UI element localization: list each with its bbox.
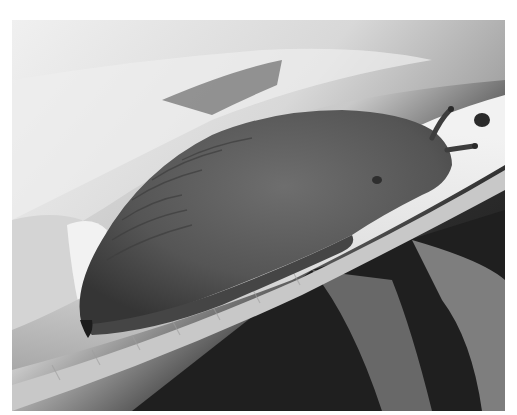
- dirt-speck: [474, 113, 490, 127]
- tentacle-tip-lower: [472, 143, 478, 149]
- photograph: Grayscale photograph of a slug crawling …: [12, 20, 505, 411]
- tentacle-tip-upper: [448, 106, 454, 112]
- slug-pneumostome: [372, 176, 382, 184]
- slug-scene: [12, 20, 505, 411]
